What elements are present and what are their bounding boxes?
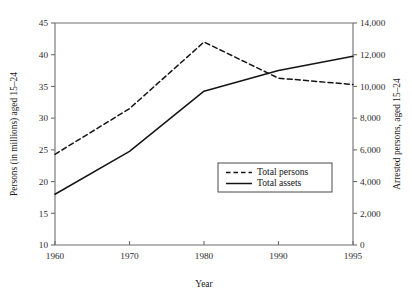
- right-tick-label: 14,000: [360, 18, 386, 28]
- left-tick-label: 15: [39, 209, 49, 219]
- y2-axis-title: Arrested persons, aged 15–24: [392, 78, 402, 190]
- left-tick-label: 20: [39, 177, 49, 187]
- x-tick-label: 1980: [195, 251, 214, 261]
- right-tick-label: 10,000: [360, 82, 386, 92]
- x-tick-label: 1960: [46, 251, 65, 261]
- left-tick-label: 25: [39, 145, 49, 155]
- right-tick-label: 8,000: [360, 113, 381, 123]
- series-line-total-persons: [55, 42, 353, 154]
- plot-frame: [55, 23, 353, 245]
- x-tick-label: 1995: [344, 251, 363, 261]
- right-tick-label: 4,000: [360, 177, 381, 187]
- left-axis-ticks: 1015202530354045: [39, 18, 55, 250]
- figure-container: 1015202530354045 02,0004,0006,0008,00010…: [0, 0, 412, 301]
- x-axis-ticks: 19601970198019901995: [46, 241, 363, 261]
- right-tick-label: 6,000: [360, 145, 381, 155]
- right-axis-ticks: 02,0004,0006,0008,00010,00012,00014,000: [353, 18, 386, 250]
- left-tick-label: 30: [39, 113, 49, 123]
- x-axis-title: Year: [195, 279, 213, 289]
- left-tick-label: 35: [39, 82, 49, 92]
- right-tick-label: 12,000: [360, 50, 386, 60]
- x-tick-label: 1990: [269, 251, 288, 261]
- right-tick-label: 2,000: [360, 209, 381, 219]
- left-tick-label: 40: [39, 50, 49, 60]
- y-axis-title: Persons (in millions) aged 15–24: [9, 72, 20, 196]
- x-tick-label: 1970: [120, 251, 139, 261]
- legend-label-total-assets: Total assets: [257, 177, 302, 188]
- left-tick-label: 10: [39, 240, 49, 250]
- line-chart: 1015202530354045 02,0004,0006,0008,00010…: [0, 0, 412, 301]
- legend: Total persons Total assets: [218, 163, 332, 192]
- legend-label-total-persons: Total persons: [257, 166, 309, 177]
- right-tick-label: 0: [360, 240, 365, 250]
- left-tick-label: 45: [39, 18, 49, 28]
